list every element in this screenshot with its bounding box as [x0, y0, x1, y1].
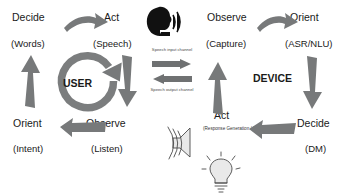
- arrow-user-observe-to-orient: [60, 116, 108, 138]
- user-node-orient-sub: (Intent): [13, 144, 43, 154]
- arrow-device-orient-to-decide: [301, 56, 325, 112]
- lightbulb-icon: [205, 152, 239, 194]
- device-center-label: DEVICE: [253, 73, 292, 84]
- device-node-act-sub: (Response Generation / Speech Synthesis): [203, 126, 251, 132]
- arrow-user-act-to-observe: [116, 55, 140, 109]
- device-node-decide-sub: (DM): [305, 144, 326, 154]
- speaking-head-icon: [146, 5, 182, 39]
- speech-output-channel-label: Speech output channel: [149, 87, 195, 92]
- user-node-orient-label: Orient: [13, 118, 42, 129]
- arrow-device-act-to-observe: [206, 60, 230, 116]
- user-node-decide-sub: (Words): [11, 39, 45, 49]
- user-node-observe-sub: (Listen): [91, 144, 123, 154]
- user-center-label: USER: [63, 78, 92, 89]
- device-node-observe-sub: (Capture): [206, 39, 246, 49]
- speech-output-channel-arrow: [152, 74, 192, 85]
- device-node-decide-label: Decide: [297, 118, 330, 129]
- arrow-user-decide-to-act: [62, 12, 110, 36]
- arrow-device-decide-to-act: [249, 118, 297, 140]
- speech-input-channel-arrow: [152, 59, 192, 70]
- device-node-orient-sub: (ASR/NLU): [285, 39, 333, 49]
- arrow-device-observe-to-orient: [255, 12, 299, 36]
- user-node-decide-label: Decide: [12, 12, 45, 23]
- loudspeaker-icon: [167, 124, 207, 164]
- speech-input-channel-label: Speech input channel: [149, 47, 195, 52]
- device-node-observe-label: Observe: [207, 12, 247, 23]
- arrow-user-orient-to-decide: [19, 52, 43, 110]
